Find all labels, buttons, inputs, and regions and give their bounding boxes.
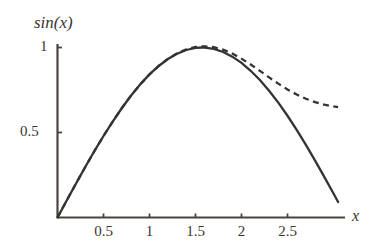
x-axis-title: x [352,208,359,224]
x-tick-label-2: 2 [238,224,246,239]
plot-canvas [0,0,373,252]
x-tick-label-1: 1 [146,224,154,239]
y-axis-title: sin(x) [34,14,73,31]
y-tick-label-1: 1 [40,39,48,54]
x-tick-label-2.5: 2.5 [278,224,297,239]
chart-figure: sin(x) x 1 0.5 0.5 1 1.5 2 2.5 [0,0,373,252]
y-axis-title-text: sin(x) [34,13,73,32]
x-tick-label-1.5: 1.5 [186,224,205,239]
x-tick-label-0.5: 0.5 [94,224,113,239]
sin-curve [58,48,339,218]
approximation-curve [58,46,339,217]
y-tick-label-0.5: 0.5 [20,124,39,139]
